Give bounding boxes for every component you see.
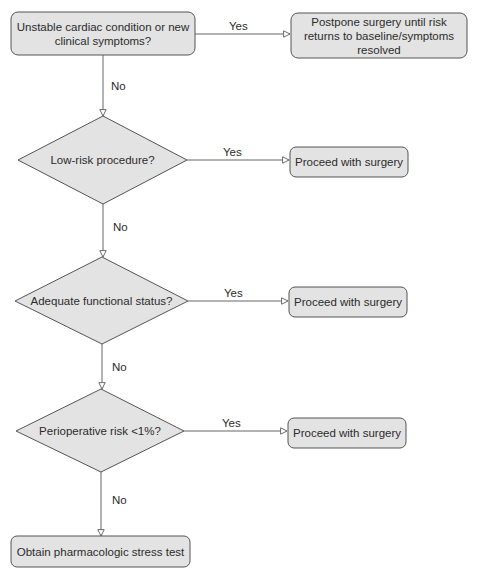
edge-label-no: No	[113, 221, 128, 233]
node-low-risk-text: Low-risk procedure?	[18, 150, 187, 170]
node-postpone-text: Postpone surgery until risk returns to b…	[291, 13, 467, 58]
node-proceed3-text: Proceed with surgery	[288, 418, 406, 448]
edge-label-yes: Yes	[229, 20, 248, 32]
edge-label-no: No	[111, 80, 126, 92]
node-stress-test-text: Obtain pharmacologic stress test	[11, 536, 190, 567]
edge-label-yes: Yes	[224, 287, 243, 299]
edge-label-no: No	[112, 494, 127, 506]
edge-label-yes: Yes	[223, 146, 242, 158]
node-proceed1-text: Proceed with surgery	[290, 147, 408, 177]
edge-label-yes: Yes	[222, 417, 241, 429]
edge-label-no: No	[112, 361, 127, 373]
node-periop-text: Perioperative risk <1%?	[16, 421, 184, 441]
node-functional-text: Adequate functional status?	[15, 291, 188, 311]
node-start-text: Unstable cardiac condition or new clinic…	[11, 12, 195, 55]
node-proceed2-text: Proceed with surgery	[289, 287, 407, 317]
